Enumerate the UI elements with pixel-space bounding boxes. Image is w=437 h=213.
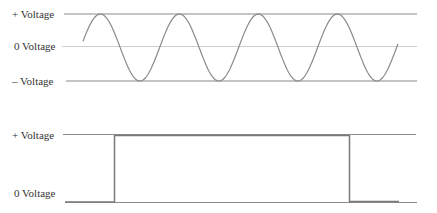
waveform-diagram: + Voltage 0 Voltage – Voltage + Voltage … xyxy=(0,0,437,213)
ac-sine-diagram: + Voltage 0 Voltage – Voltage xyxy=(11,8,417,87)
dc-square-diagram: + Voltage 0 Voltage xyxy=(12,129,417,203)
square-pulse-wave xyxy=(65,136,399,203)
dc-zero-voltage-label: 0 Voltage xyxy=(14,187,56,199)
ac-minus-voltage-label: – Voltage xyxy=(11,75,54,87)
dc-plus-voltage-label: + Voltage xyxy=(12,129,54,141)
sine-wave xyxy=(83,14,398,81)
ac-zero-voltage-label: 0 Voltage xyxy=(14,40,56,52)
ac-plus-voltage-label: + Voltage xyxy=(12,8,54,20)
